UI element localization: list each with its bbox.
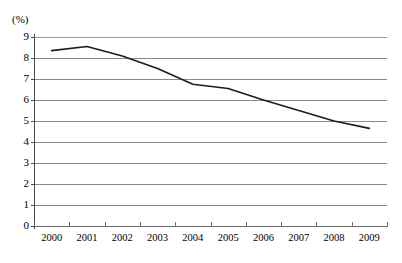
y-tick-mark-8 (31, 58, 35, 59)
x-tick-mark-7 (281, 222, 282, 226)
series-layer (0, 0, 402, 263)
x-tick-label-2002: 2002 (102, 232, 142, 244)
series-line-unemployment (52, 46, 370, 128)
y-tick-mark-0 (31, 226, 35, 227)
x-tick-mark-2 (105, 222, 106, 226)
y-tick-mark-7 (31, 79, 35, 80)
x-tick-label-2005: 2005 (208, 232, 248, 244)
x-tick-mark-10 (387, 222, 388, 226)
y-tick-mark-3 (31, 163, 35, 164)
x-tick-label-2008: 2008 (314, 232, 354, 244)
x-tick-mark-6 (246, 222, 247, 226)
x-tick-mark-5 (211, 222, 212, 226)
y-tick-mark-4 (31, 142, 35, 143)
x-tick-mark-9 (352, 222, 353, 226)
x-tick-label-2007: 2007 (279, 232, 319, 244)
x-tick-mark-1 (69, 222, 70, 226)
y-tick-mark-2 (31, 184, 35, 185)
x-tick-label-2003: 2003 (138, 232, 178, 244)
x-tick-mark-8 (316, 222, 317, 226)
y-tick-mark-1 (31, 205, 35, 206)
line-chart: (%) 9876543210 2000200120022003200420052… (0, 0, 402, 263)
y-tick-mark-9 (31, 37, 35, 38)
x-tick-label-2001: 2001 (67, 232, 107, 244)
x-tick-label-2009: 2009 (349, 232, 389, 244)
y-tick-mark-5 (31, 121, 35, 122)
x-tick-label-2000: 2000 (32, 232, 72, 244)
x-tick-label-2006: 2006 (243, 232, 283, 244)
x-tick-label-2004: 2004 (173, 232, 213, 244)
x-tick-mark-0 (34, 222, 35, 226)
y-tick-mark-6 (31, 100, 35, 101)
x-tick-mark-3 (140, 222, 141, 226)
x-tick-mark-4 (175, 222, 176, 226)
